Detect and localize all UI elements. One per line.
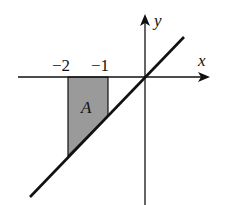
x-axis-label: x	[197, 51, 206, 70]
tick-label-neg1: −1	[91, 56, 109, 75]
y-axis-label: y	[152, 11, 162, 30]
tick-label-neg2: −2	[52, 56, 70, 75]
region-label-a: A	[80, 98, 92, 117]
diagram: x y −2 −1 A	[0, 0, 227, 205]
